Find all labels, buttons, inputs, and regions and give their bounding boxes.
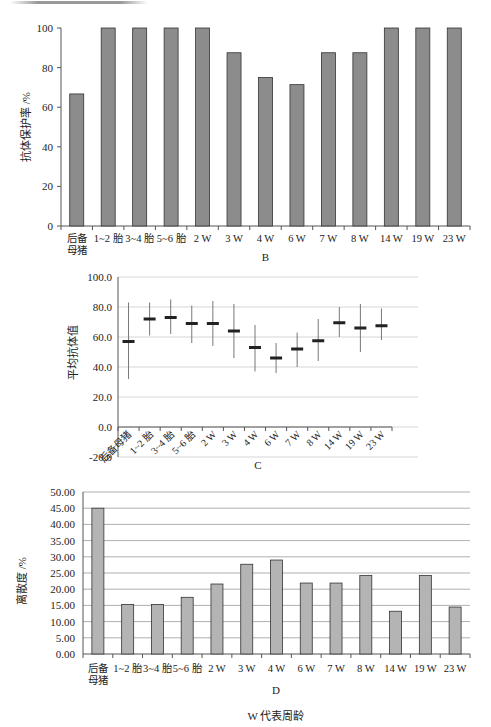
- x-tick-label: 8 W: [357, 663, 375, 674]
- y-axis-label: 离散度 /%: [15, 557, 28, 605]
- y-tick-label: 15.00: [50, 599, 75, 611]
- bar: [241, 564, 253, 654]
- x-tick-label: 6 W: [297, 663, 315, 674]
- bar: [92, 508, 104, 654]
- x-tick-label: 7 W: [327, 663, 345, 674]
- x-tick-label: 2 W: [208, 663, 226, 674]
- y-tick-label: 20.00: [50, 583, 75, 595]
- bar: [449, 607, 461, 654]
- chart-caption: D: [272, 684, 280, 696]
- x-tick-label: 14 W: [384, 663, 407, 674]
- y-tick-label: 30.00: [50, 551, 75, 563]
- bar: [390, 611, 402, 654]
- chart-d-dispersion: 0.005.0010.0015.0020.0025.0030.0035.0040…: [0, 0, 491, 727]
- x-tick-label: 5~6 胎: [173, 662, 203, 674]
- x-tick-label: 4 W: [268, 663, 286, 674]
- x-tick-label: 母猪: [88, 675, 109, 686]
- x-tick-label: 19 W: [414, 663, 437, 674]
- y-tick-label: 5.00: [56, 632, 76, 644]
- y-tick-label: 45.00: [50, 502, 75, 514]
- y-tick-label: 25.00: [50, 567, 75, 579]
- bar: [211, 584, 223, 654]
- bar: [360, 576, 372, 654]
- y-tick-label: 10.00: [50, 616, 75, 628]
- bar: [181, 597, 193, 654]
- bar: [151, 604, 163, 654]
- x-tick-label: 23 W: [444, 663, 467, 674]
- x-tick-label: 3~4 胎: [143, 662, 173, 674]
- bar: [330, 583, 342, 654]
- y-tick-label: 35.00: [50, 535, 75, 547]
- y-tick-label: 50.00: [50, 486, 75, 498]
- x-tick-label: 1~2 胎: [113, 662, 143, 674]
- bar: [300, 583, 312, 654]
- bar: [122, 604, 134, 654]
- y-tick-label: 40.00: [50, 518, 75, 530]
- footnote: W 代表周龄: [248, 709, 305, 722]
- x-tick-label: 3 W: [238, 663, 256, 674]
- y-tick-label: 0.00: [56, 648, 76, 660]
- x-tick-label: 后备: [88, 662, 109, 674]
- bar: [271, 560, 283, 654]
- bar: [419, 576, 431, 654]
